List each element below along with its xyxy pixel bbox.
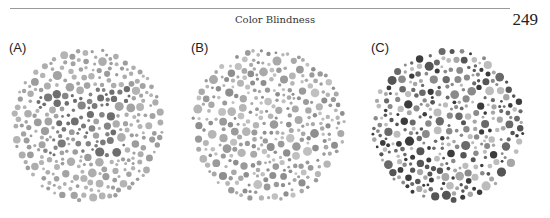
color-plate-c xyxy=(0,0,550,218)
